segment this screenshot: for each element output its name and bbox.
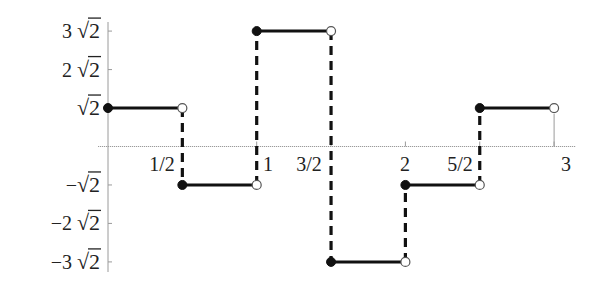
y-tick-label: 3 √2	[62, 18, 101, 43]
y-tick-label-text: −√2	[66, 172, 100, 197]
y-tick-label: √2	[77, 95, 101, 120]
y-tick-label: −√2	[66, 172, 101, 197]
x-tick-label: 2	[400, 153, 410, 175]
y-tick-label-text: 3 √2	[62, 18, 100, 43]
y-tick-label-text: √2	[77, 95, 100, 120]
filled-circle-marker	[104, 104, 113, 113]
open-circle-marker	[327, 27, 336, 36]
filled-circle-marker	[327, 257, 336, 266]
x-tick-label: 1	[263, 153, 273, 175]
x-tick-label: 1/2	[149, 153, 175, 175]
y-tick-label-text: −3 √2	[51, 249, 100, 274]
filled-circle-marker	[178, 180, 187, 189]
filled-circle-marker	[252, 27, 261, 36]
open-circle-marker	[252, 180, 261, 189]
y-tick-label-text: −2 √2	[51, 210, 100, 235]
open-circle-marker	[550, 104, 559, 113]
y-tick-label: −2 √2	[51, 210, 101, 235]
x-tick-label: 5/2	[447, 153, 473, 175]
y-tick-label: −3 √2	[51, 249, 101, 274]
filled-circle-marker	[475, 104, 484, 113]
open-circle-marker	[178, 104, 187, 113]
filled-circle-marker	[401, 180, 410, 189]
open-circle-marker	[475, 180, 484, 189]
open-circle-marker	[401, 257, 410, 266]
step-function-chart: 3 √22 √2√2−√2−2 √2−3 √2 1/213/225/23	[0, 0, 600, 293]
x-tick-label: 3/2	[296, 153, 322, 175]
x-tick-label: 3	[561, 153, 571, 175]
x-axis-ticks: 1/213/225/23	[149, 114, 571, 175]
y-tick-label: 2 √2	[62, 57, 101, 82]
y-tick-label-text: 2 √2	[62, 57, 100, 82]
axes	[98, 22, 576, 272]
